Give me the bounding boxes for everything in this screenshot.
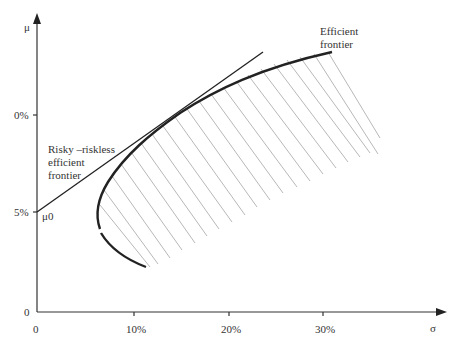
y-axis-label: μ <box>24 21 30 33</box>
efficient-frontier-curve <box>97 52 332 229</box>
x-tick-30pct: 30% <box>315 323 335 335</box>
y-tick-origin: 0 <box>24 306 30 318</box>
x-axis-arrow-icon <box>436 308 447 316</box>
x-tick-0: 0 <box>33 323 39 335</box>
x-axis-label: σ <box>430 322 436 334</box>
efficient-frontier-label-2: frontier <box>320 38 353 50</box>
risky-riskless-label-1: Risky –riskless <box>48 143 115 155</box>
risky-riskless-line <box>37 52 263 212</box>
y-tick-5pct: 5% <box>14 206 29 218</box>
risky-riskless-label-2: efficient <box>48 156 84 168</box>
efficient-frontier-label-1: Efficient <box>320 25 358 37</box>
feasible-region-hatching <box>100 52 380 267</box>
mu0-label: μ0 <box>42 210 54 222</box>
risky-riskless-label-3: frontier <box>48 169 81 181</box>
axes <box>33 20 440 316</box>
efficient-frontier-chart: μ σ 0% 5% 0 0 10% 20% 30% μ0 Efficient f… <box>0 0 458 343</box>
y-axis-arrow-icon <box>33 13 41 24</box>
y-tick-0pct: 0% <box>14 109 29 121</box>
x-tick-10pct: 10% <box>126 323 146 335</box>
x-tick-20pct: 20% <box>221 323 241 335</box>
